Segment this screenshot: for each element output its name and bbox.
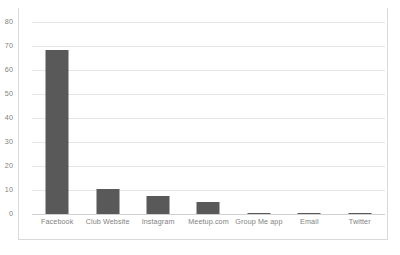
chart-frame-right-border xyxy=(387,8,388,240)
y-axis-tick-label: 60 xyxy=(0,66,13,73)
axis-baseline xyxy=(32,214,385,215)
x-axis-tick-label: Facebook xyxy=(41,218,73,227)
bar-series xyxy=(32,22,385,214)
y-axis-tick-label: 30 xyxy=(0,138,13,145)
x-axis-tick-label: Instagram xyxy=(142,218,175,227)
y-axis-tick-label: 0 xyxy=(0,210,13,217)
bar-slot xyxy=(133,22,183,214)
bar[interactable] xyxy=(197,202,220,214)
bar-slot xyxy=(82,22,132,214)
y-axis-tick-label: 40 xyxy=(0,114,13,121)
plot-area: 01020304050607080 xyxy=(32,22,385,214)
bar-slot xyxy=(284,22,334,214)
y-axis-tick-label: 70 xyxy=(0,42,13,49)
bar[interactable] xyxy=(247,213,270,214)
bar[interactable] xyxy=(147,196,170,214)
x-axis-tick-label: Email xyxy=(300,218,318,227)
x-axis-tick-label: Club Website xyxy=(86,218,130,227)
bar[interactable] xyxy=(298,213,321,214)
x-axis-tick-label: Meetup.com xyxy=(188,218,229,227)
y-axis-tick-label: 20 xyxy=(0,162,13,169)
bar[interactable] xyxy=(46,50,69,214)
bar-chart: 01020304050607080 FacebookClub WebsiteIn… xyxy=(0,0,400,255)
bar-slot xyxy=(183,22,233,214)
bar-slot xyxy=(32,22,82,214)
bar[interactable] xyxy=(348,213,371,214)
x-axis-tick-label: Group Me app xyxy=(235,218,282,227)
y-axis-tick-label: 80 xyxy=(0,18,13,25)
bar-slot xyxy=(234,22,284,214)
bar[interactable] xyxy=(96,189,119,214)
y-axis-tick-label: 10 xyxy=(0,186,13,193)
chart-frame-bottom-border xyxy=(18,239,388,240)
x-axis-tick-labels: FacebookClub WebsiteInstagramMeetup.comG… xyxy=(32,218,385,234)
x-axis-tick-label: Twitter xyxy=(349,218,371,227)
chart-frame-left-border xyxy=(18,8,19,240)
bar-slot xyxy=(335,22,385,214)
y-axis-tick-label: 50 xyxy=(0,90,13,97)
